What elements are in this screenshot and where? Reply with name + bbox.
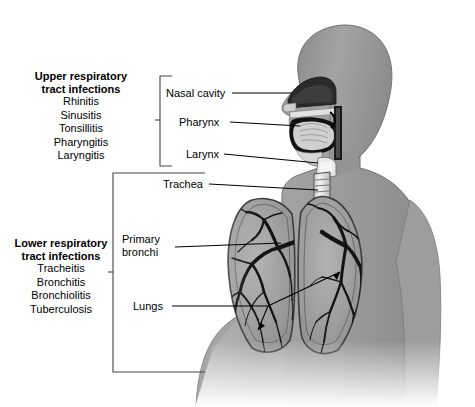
callout-label-trachea: Trachea (163, 178, 203, 190)
lower-item-bronchiolitis: Bronchiolitis (12, 289, 110, 303)
lower-group-heading-line1: Lower respiratory (12, 237, 110, 250)
callout-label-pharynx: Pharynx (179, 116, 219, 128)
upper-item-sinusitis: Sinusitis (14, 109, 148, 123)
upper-item-pharyngitis: Pharyngitis (14, 136, 148, 150)
callout-label-primary-bronchi-line2: bronchi (122, 246, 158, 258)
upper-item-rhinitis: Rhinitis (14, 95, 148, 109)
pharynx-lumen (336, 108, 340, 158)
left-fade (186, 160, 260, 407)
upper-group-heading-line1: Upper respiratory (14, 70, 148, 83)
callout-label-lungs: Lungs (133, 300, 163, 312)
callout-label-nasal-cavity: Nasal cavity (166, 87, 225, 99)
respiratory-diagram-page: Upper respiratory tract infections Rhini… (0, 0, 475, 407)
nostril (283, 103, 296, 112)
lower-item-tracheitis: Tracheitis (12, 262, 110, 276)
upper-group-heading-line2: tract infections (14, 83, 148, 96)
callout-label-primary-bronchi-line1: Primary (122, 233, 160, 245)
callout-label-larynx: Larynx (186, 148, 219, 160)
upper-respiratory-group: Upper respiratory tract infections Rhini… (14, 70, 148, 163)
lower-item-tuberculosis: Tuberculosis (12, 303, 110, 317)
lower-group-heading-line2: tract infections (12, 250, 110, 263)
upper-item-tonsillitis: Tonsillitis (14, 122, 148, 136)
lower-respiratory-group: Lower respiratory tract infections Trach… (12, 237, 110, 316)
lower-item-bronchitis: Bronchitis (12, 276, 110, 290)
upper-item-laryngitis: Laryngitis (14, 149, 148, 163)
anatomy-illustration (0, 0, 475, 407)
